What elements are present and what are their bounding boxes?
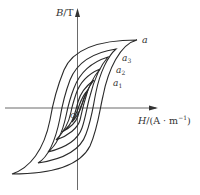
tip-label-a: a [142, 34, 148, 45]
y-axis-arrow-icon [75, 8, 80, 17]
loop-a2 [48, 57, 108, 152]
tip-label-a2: a2 [116, 65, 125, 76]
tip-label-a3: a3 [122, 53, 131, 64]
origin-label: O [70, 111, 77, 120]
y-axis-label: B/T [55, 7, 74, 18]
hysteresis-diagram: B/T H/(A · m−1) O a a3 a2 a1 [0, 0, 200, 195]
x-axis-label: H/(A · m−1) [137, 114, 191, 126]
loop-a [12, 40, 137, 174]
tip-label-a1: a1 [113, 78, 122, 89]
hysteresis-loops [12, 40, 137, 174]
x-axis-arrow-icon [149, 106, 158, 111]
